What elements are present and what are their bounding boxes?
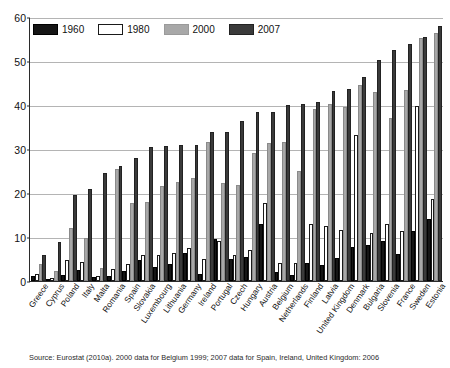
- bar-group: [335, 18, 350, 281]
- bar-group: [411, 18, 426, 281]
- y-tick-label: 0: [20, 277, 26, 288]
- legend-item: 2007: [229, 24, 280, 35]
- swatch-1960-icon: [33, 24, 58, 35]
- bar-group: [214, 18, 229, 281]
- bar-group: [305, 18, 320, 281]
- bar-group: [77, 18, 92, 281]
- bar-groups: [30, 18, 443, 281]
- y-tick-label: 10: [14, 233, 26, 244]
- plot-area: 0102030405060: [29, 18, 443, 282]
- bar-group: [198, 18, 213, 281]
- bar-group: [46, 18, 61, 281]
- bar-group: [92, 18, 107, 281]
- bar-group: [229, 18, 244, 281]
- swatch-1980-icon: [98, 24, 123, 35]
- bar-group: [153, 18, 168, 281]
- legend-label: 1960: [62, 25, 84, 35]
- bar-group: [427, 18, 442, 281]
- bar-group: [381, 18, 396, 281]
- y-tick-label: 20: [14, 189, 26, 200]
- y-tick-label: 30: [14, 145, 26, 156]
- y-tick-label: 50: [14, 57, 26, 68]
- x-axis-labels: GreeceCyprusPolandItalyMaltaRomaniaSpain…: [29, 282, 443, 348]
- bar-group: [244, 18, 259, 281]
- legend-label: 1980: [127, 25, 149, 35]
- legend-item: 1980: [98, 24, 149, 35]
- legend-label: 2000: [193, 25, 215, 35]
- swatch-2000-icon: [164, 24, 189, 35]
- y-tick-label: 60: [14, 13, 26, 24]
- legend-item: 1960: [33, 24, 84, 35]
- bar-group: [275, 18, 290, 281]
- bar-group: [122, 18, 137, 281]
- bar-group: [168, 18, 183, 281]
- bar-group: [320, 18, 335, 281]
- bar-group: [259, 18, 274, 281]
- bar-group: [183, 18, 198, 281]
- swatch-2007-icon: [229, 24, 254, 35]
- bar-group: [366, 18, 381, 281]
- bar-group: [138, 18, 153, 281]
- bar-group: [107, 18, 122, 281]
- bar-group: [351, 18, 366, 281]
- legend-item: 2000: [164, 24, 215, 35]
- legend-label: 2007: [258, 25, 280, 35]
- bar-group: [396, 18, 411, 281]
- chart-legend: 1960198020002007: [33, 24, 288, 35]
- chart-figure: 0102030405060 GreeceCyprusPolandItalyMal…: [0, 0, 450, 368]
- bar-group: [61, 18, 76, 281]
- bar: [438, 26, 442, 281]
- source-note: Source: Eurostat (2010a). 2000 data for …: [29, 354, 449, 363]
- y-tick-label: 40: [14, 101, 26, 112]
- bar-group: [31, 18, 46, 281]
- bar-group: [290, 18, 305, 281]
